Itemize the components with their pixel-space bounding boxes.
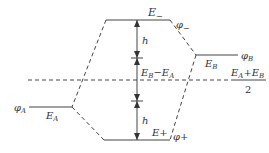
connector-a-to-bonding <box>72 107 104 140</box>
connector-b-to-bonding <box>170 55 196 140</box>
energy-level-diagram: E− φ− h h EB−EA φB EB EA+EB 2 φA EA E+ φ… <box>0 0 269 153</box>
bonding-orbital-label: φ+ <box>173 131 188 142</box>
atomic-a-energy-label: EA <box>45 110 58 123</box>
midline-denominator: 2 <box>245 84 251 95</box>
antibonding-orbital-label: φ− <box>176 19 190 33</box>
bonding-energy-label: E+ <box>151 127 168 138</box>
arrow-up-icon <box>134 101 140 108</box>
atomic-b-energy-label: EB <box>204 58 217 71</box>
lower-gap-label: h <box>142 115 148 126</box>
upper-gap-label: h <box>142 35 148 46</box>
antibonding-energy-label: E− <box>147 6 163 21</box>
difference-label: EB−EA <box>140 67 174 80</box>
midline-numerator: EA+EB <box>230 67 264 80</box>
connector-a-to-antibonding <box>72 20 106 107</box>
atomic-b-orbital-label: φB <box>241 50 253 63</box>
arrow-down-icon <box>134 133 140 140</box>
arrow-up-icon <box>134 58 140 65</box>
arrow-down-icon <box>134 51 140 58</box>
arrow-up-icon <box>134 20 140 27</box>
arrow-down-icon <box>134 94 140 101</box>
atomic-a-orbital-label: φA <box>14 102 26 115</box>
